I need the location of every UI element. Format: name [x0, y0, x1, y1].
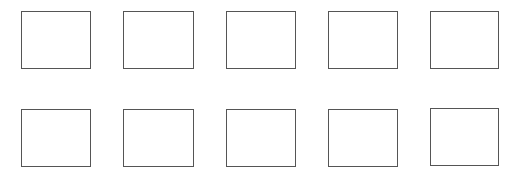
empty-box: [328, 11, 398, 69]
empty-box: [226, 109, 296, 167]
empty-box: [226, 11, 296, 69]
empty-box: [328, 109, 398, 167]
empty-box: [21, 11, 91, 69]
empty-box: [21, 109, 91, 167]
empty-box: [123, 11, 194, 69]
empty-box: [430, 11, 499, 69]
empty-box: [123, 109, 194, 167]
empty-box: [430, 108, 499, 166]
